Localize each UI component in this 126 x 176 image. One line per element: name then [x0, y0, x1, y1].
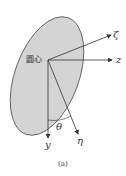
diagram-canvas [0, 0, 126, 176]
eta-label: η [77, 136, 83, 146]
caption: (a) [58, 160, 68, 168]
disk-ellipse [0, 7, 98, 145]
center-label: 圆心 [26, 56, 42, 64]
theta-label: θ [56, 122, 62, 132]
z-label: z [116, 55, 121, 65]
zeta-label: ζ [113, 30, 118, 40]
y-label: y [45, 140, 51, 150]
